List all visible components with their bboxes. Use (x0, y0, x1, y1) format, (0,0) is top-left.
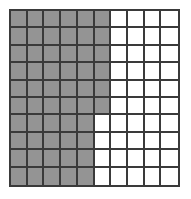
grid-cell-shaded (28, 63, 45, 80)
grid-cell-unshaded (145, 115, 162, 132)
grid-cell-shaded (11, 81, 28, 98)
grid-cell-unshaded (145, 98, 162, 115)
grid-cell-shaded (28, 168, 45, 185)
grid-cell-shaded (78, 150, 95, 167)
grid-cell-shaded (28, 150, 45, 167)
grid-cell-shaded (95, 11, 112, 28)
grid-cell-shaded (61, 46, 78, 63)
grid-cell-shaded (11, 11, 28, 28)
grid-cell-unshaded (161, 115, 178, 132)
grid-cell-unshaded (111, 81, 128, 98)
grid-cell-unshaded (145, 168, 162, 185)
grid-cell-shaded (44, 11, 61, 28)
grid-cell-unshaded (161, 28, 178, 45)
grid-cell-unshaded (128, 150, 145, 167)
grid-cell-shaded (11, 46, 28, 63)
grid-cell-unshaded (95, 150, 112, 167)
grid-cell-unshaded (111, 168, 128, 185)
grid-cell-shaded (78, 81, 95, 98)
grid-cell-shaded (78, 11, 95, 28)
grid-cell-unshaded (161, 98, 178, 115)
grid-cell-shaded (28, 28, 45, 45)
grid-cell-unshaded (145, 63, 162, 80)
grid-cell-unshaded (128, 168, 145, 185)
grid-cell-unshaded (161, 133, 178, 150)
grid-cell-unshaded (111, 63, 128, 80)
grid-cell-unshaded (128, 98, 145, 115)
grid-cell-unshaded (128, 63, 145, 80)
grid-cell-shaded (95, 81, 112, 98)
grid-cell-unshaded (128, 133, 145, 150)
grid-cell-shaded (44, 28, 61, 45)
grid-cell-shaded (78, 98, 95, 115)
grid-cell-shaded (78, 46, 95, 63)
grid-cell-unshaded (145, 11, 162, 28)
grid-cell-shaded (61, 11, 78, 28)
grid-cell-unshaded (145, 133, 162, 150)
grid-cell-shaded (61, 115, 78, 132)
grid-cell-unshaded (161, 168, 178, 185)
grid-cell-shaded (44, 63, 61, 80)
grid-cell-shaded (11, 168, 28, 185)
grid-cell-shaded (78, 28, 95, 45)
grid-cell-unshaded (161, 150, 178, 167)
grid-cell-unshaded (161, 46, 178, 63)
grid-outer-border (9, 9, 180, 187)
grid-cell-shaded (11, 133, 28, 150)
grid-cell-unshaded (111, 98, 128, 115)
grid-cell-unshaded (145, 150, 162, 167)
grid-cell-unshaded (128, 115, 145, 132)
grid-cell-shaded (61, 63, 78, 80)
grid-cell-unshaded (95, 168, 112, 185)
grid-cell-shaded (44, 168, 61, 185)
grid-cell-unshaded (145, 81, 162, 98)
grid-cell-shaded (95, 46, 112, 63)
grid-cell-unshaded (128, 46, 145, 63)
grid-cell-unshaded (161, 63, 178, 80)
grid-cell-unshaded (111, 133, 128, 150)
grid-cell-shaded (61, 28, 78, 45)
grid-cell-shaded (11, 28, 28, 45)
grid-cell-unshaded (111, 46, 128, 63)
grid-cell-shaded (28, 133, 45, 150)
grid-cell-shaded (28, 98, 45, 115)
grid-cell-shaded (95, 98, 112, 115)
grid-cell-shaded (61, 133, 78, 150)
grid-cell-shaded (44, 46, 61, 63)
grid-cell-unshaded (128, 81, 145, 98)
grid-cell-shaded (28, 11, 45, 28)
grid-cell-shaded (61, 81, 78, 98)
shaded-grid (11, 11, 178, 185)
grid-figure-screenshot (0, 0, 191, 199)
grid-cell-unshaded (128, 11, 145, 28)
grid-cell-shaded (61, 150, 78, 167)
grid-cell-shaded (44, 133, 61, 150)
grid-cell-shaded (28, 81, 45, 98)
grid-cell-shaded (28, 115, 45, 132)
grid-cell-shaded (28, 46, 45, 63)
grid-cell-shaded (78, 63, 95, 80)
grid-cell-shaded (78, 168, 95, 185)
grid-cell-unshaded (95, 115, 112, 132)
grid-cell-shaded (11, 63, 28, 80)
grid-cell-shaded (44, 115, 61, 132)
grid-cell-shaded (11, 98, 28, 115)
grid-cell-unshaded (145, 46, 162, 63)
grid-cell-unshaded (128, 28, 145, 45)
grid-cell-unshaded (161, 11, 178, 28)
grid-cell-shaded (78, 133, 95, 150)
grid-cell-shaded (11, 115, 28, 132)
grid-cell-unshaded (145, 28, 162, 45)
grid-cell-shaded (95, 28, 112, 45)
grid-cell-shaded (44, 98, 61, 115)
grid-cell-unshaded (111, 11, 128, 28)
grid-cell-unshaded (95, 133, 112, 150)
grid-cell-unshaded (161, 81, 178, 98)
grid-cell-shaded (78, 115, 95, 132)
grid-cell-shaded (95, 63, 112, 80)
grid-cell-unshaded (111, 28, 128, 45)
grid-cell-shaded (61, 98, 78, 115)
grid-cell-shaded (44, 150, 61, 167)
grid-cell-unshaded (111, 150, 128, 167)
grid-cell-shaded (61, 168, 78, 185)
